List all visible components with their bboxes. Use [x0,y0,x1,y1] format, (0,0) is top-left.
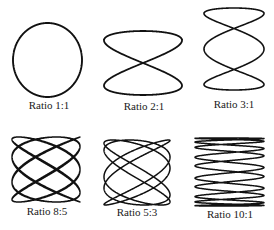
curve-ratio-10-1 [195,138,264,206]
curve-ratio-5-3 [104,140,170,205]
caption-ratio-5-3: Ratio 5:3 [117,206,158,218]
curve-ratio-1-1 [13,23,82,97]
curve-ratio-8-5 [12,137,80,202]
curve-ratio-3-1 [204,8,264,90]
curve-ratio-2-1 [104,31,182,95]
caption-ratio-2-1: Ratio 2:1 [124,100,165,112]
caption-ratio-8-5: Ratio 8:5 [27,205,68,217]
lissajous-figure-canvas [0,0,274,230]
caption-ratio-1-1: Ratio 1:1 [29,99,70,111]
caption-ratio-3-1: Ratio 3:1 [214,98,255,110]
caption-ratio-10-1: Ratio 10:1 [207,208,253,220]
